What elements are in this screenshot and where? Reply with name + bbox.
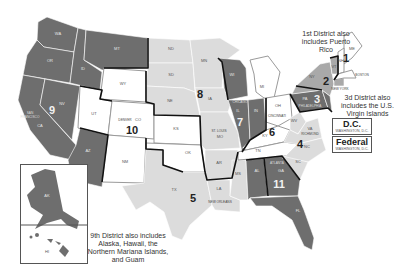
svg-text:TX: TX — [171, 187, 176, 192]
svg-text:4: 4 — [297, 138, 304, 150]
svg-text:TN: TN — [255, 148, 260, 153]
state-oh — [266, 94, 292, 126]
svg-text:RICHMOND: RICHMOND — [301, 132, 319, 136]
svg-text:NV: NV — [59, 101, 65, 106]
svg-text:AK: AK — [44, 193, 50, 198]
inset-map: AK HI — [21, 165, 87, 263]
svg-text:11: 11 — [273, 178, 285, 190]
svg-text:OK: OK — [185, 150, 191, 155]
svg-text:VT: VT — [331, 64, 337, 69]
federal-circuit-box: Federal WASHINGTON, D.C. — [332, 136, 372, 153]
svg-text:SC: SC — [295, 159, 301, 164]
svg-text:HI: HI — [45, 249, 49, 254]
svg-text:CHICAGO: CHICAGO — [233, 100, 248, 104]
svg-text:IA: IA — [208, 96, 212, 101]
note-ninth-district: 9th District also includes Alaska, Hawai… — [86, 232, 170, 264]
svg-text:7: 7 — [237, 116, 243, 128]
svg-text:6: 6 — [269, 126, 275, 138]
alaska-hawaii-inset: AK HI — [20, 164, 88, 264]
svg-text:CINCINNATI: CINCINNATI — [268, 114, 286, 118]
svg-text:5: 5 — [190, 192, 196, 204]
svg-text:AZ: AZ — [85, 148, 91, 153]
hawaii-island — [30, 236, 33, 239]
svg-text:DENVER: DENVER — [118, 118, 132, 122]
svg-text:UT: UT — [91, 111, 97, 116]
svg-text:3: 3 — [314, 93, 320, 105]
note-first-district: 1st District also includes Puerto Rico — [296, 30, 356, 54]
svg-text:AR: AR — [216, 160, 222, 165]
svg-text:FRANCISCO: FRANCISCO — [21, 115, 40, 119]
federal-circuit-location: WASHINGTON, D.C. — [333, 147, 371, 152]
svg-text:ST. LOUIS: ST. LOUIS — [211, 129, 226, 133]
svg-text:MS: MS — [235, 171, 241, 176]
svg-text:OH: OH — [275, 103, 281, 108]
svg-text:NEW ORLEANS: NEW ORLEANS — [208, 200, 232, 204]
svg-text:WA: WA — [55, 31, 62, 36]
dc-circuit-title: D.C. — [333, 119, 371, 129]
svg-text:MN: MN — [201, 58, 207, 63]
svg-text:ATLANTA: ATLANTA — [270, 161, 285, 165]
svg-text:NM: NM — [122, 159, 128, 164]
dc-circuit-location: WASHINGTON, D.C. — [333, 129, 371, 134]
svg-text:WI: WI — [230, 72, 235, 77]
svg-text:KY: KY — [262, 133, 268, 138]
svg-text:SD: SD — [168, 72, 174, 77]
hawaii-island — [59, 245, 69, 257]
svg-text:ND: ND — [168, 46, 174, 51]
state-fl — [250, 196, 314, 250]
svg-text:WV: WV — [291, 118, 298, 123]
hawaii-island — [35, 233, 39, 237]
svg-text:VA: VA — [307, 126, 312, 131]
svg-text:FL: FL — [296, 208, 301, 213]
hawaii-island — [55, 241, 61, 245]
svg-text:MT: MT — [114, 46, 120, 51]
note-third-district: 3d District also includes the U.S. Virgi… — [336, 94, 399, 118]
svg-text:NE: NE — [167, 98, 173, 103]
svg-text:BOSTON: BOSTON — [355, 73, 369, 77]
svg-text:8: 8 — [197, 88, 203, 100]
federal-circuit-title: Federal — [333, 137, 371, 147]
svg-text:NEW YORK: NEW YORK — [331, 87, 349, 91]
state-ak — [27, 169, 79, 229]
svg-text:2: 2 — [323, 75, 329, 87]
svg-text:CA: CA — [37, 123, 43, 128]
svg-text:NC: NC — [304, 144, 310, 149]
state-ms — [230, 160, 248, 200]
state-mi — [250, 56, 280, 98]
svg-text:NY: NY — [309, 74, 315, 79]
dc-circuit-box: D.C. WASHINGTON, D.C. — [332, 118, 372, 135]
svg-text:GA: GA — [278, 168, 284, 173]
svg-text:IN: IN — [254, 108, 258, 113]
svg-text:10: 10 — [126, 124, 138, 136]
svg-text:MI: MI — [260, 84, 264, 89]
svg-text:OR: OR — [47, 58, 53, 63]
svg-text:PA: PA — [302, 96, 307, 101]
hawaii-island — [47, 239, 53, 243]
svg-text:AL: AL — [255, 168, 261, 173]
svg-text:ID: ID — [81, 66, 85, 71]
svg-text:CO: CO — [135, 117, 141, 122]
svg-text:9: 9 — [49, 104, 55, 116]
svg-text:WY: WY — [120, 81, 127, 86]
svg-text:KS: KS — [173, 126, 179, 131]
svg-text:LA: LA — [217, 186, 222, 191]
svg-text:MO: MO — [217, 134, 223, 139]
